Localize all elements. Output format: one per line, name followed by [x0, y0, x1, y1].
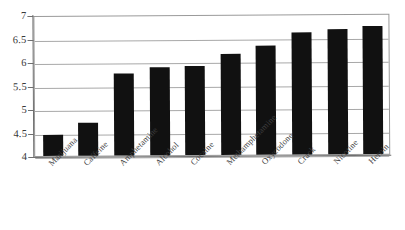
x-axis-category-label: Crack — [295, 144, 317, 166]
x-axis-category-label: Heroin — [366, 141, 391, 166]
bar-chart: 76.565.554.54 MarijuanaCaffeineAmphetami… — [0, 0, 405, 230]
x-axis-category-label: Nicotine — [331, 137, 360, 166]
x-axis-category-label: Caffeine — [82, 139, 111, 168]
x-axis-category-label: Cocaine — [188, 139, 216, 167]
x-axis-category-label: Oxycodone — [260, 131, 296, 167]
x-axis-category-label: Alcohol — [153, 140, 180, 167]
x-axis-category-label: Marijuana — [46, 135, 79, 168]
x-axis-labels: MarijuanaCaffeineAmphetamineAlcoholCocai… — [0, 0, 405, 230]
